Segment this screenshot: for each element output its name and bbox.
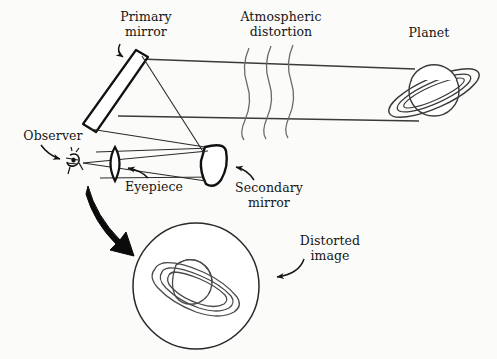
observer-eye-icon	[66, 147, 83, 174]
label-distorted-image: Distorted image	[290, 234, 370, 263]
distorted-image-inset	[133, 223, 259, 349]
callout-arrow-secondary-mirror	[236, 167, 254, 180]
planet-saturn	[383, 59, 485, 126]
callout-arrow-observer	[41, 145, 60, 159]
ray-lower-incoming	[118, 116, 419, 121]
label-planet: Planet	[394, 26, 464, 41]
label-observer: Observer	[12, 129, 94, 144]
ray-secondary-to-eye-a	[83, 151, 208, 163]
ray-upper-incoming	[140, 59, 415, 69]
callout-arrow-primary-mirror	[119, 44, 123, 57]
distortion-wave-3	[286, 45, 294, 138]
planet-body-overlap	[411, 65, 457, 80]
eyepiece-lens-body	[111, 147, 120, 181]
label-primary-mirror: Primary mirror	[100, 10, 192, 39]
label-eyepiece: Eyepiece	[118, 180, 190, 195]
distortion-wave-1	[242, 48, 250, 140]
label-atmospheric-distortion: Atmospheric distortion	[229, 10, 333, 39]
telescope-diagram: Primary mirror Atmospheric distortion Pl…	[0, 0, 497, 359]
primary-mirror	[83, 50, 148, 132]
distortion-wave-2	[264, 46, 272, 139]
atmospheric-distortion-waves	[242, 45, 294, 140]
primary-mirror-body	[83, 50, 148, 132]
magnify-arrow	[86, 186, 134, 256]
eyepiece-lens	[111, 147, 120, 181]
magnify-arrow-body	[86, 186, 134, 256]
label-secondary-mirror: Secondary mirror	[229, 181, 309, 210]
